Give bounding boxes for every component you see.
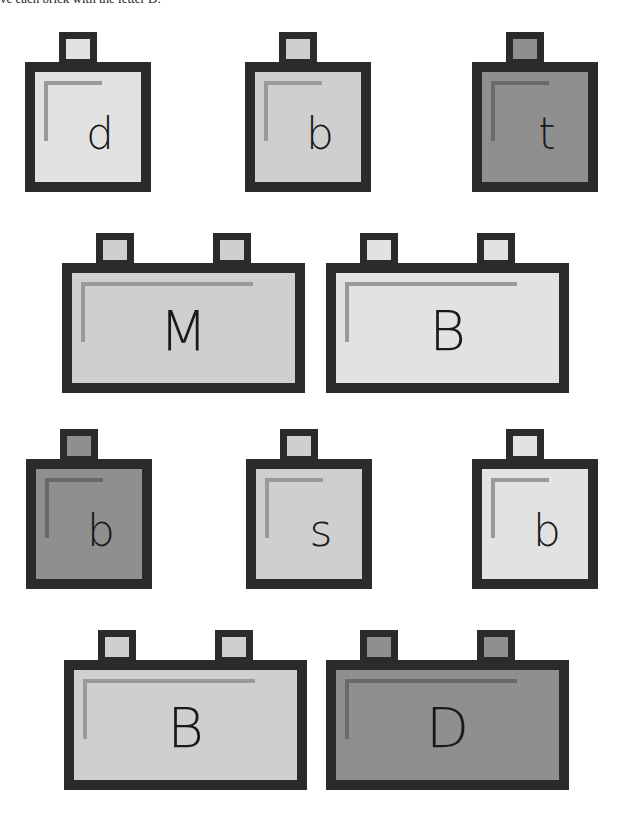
highlight-line — [265, 478, 323, 482]
brick-stud — [96, 233, 134, 267]
letter-brick[interactable]: d — [25, 32, 151, 192]
brick-letter: t — [512, 112, 582, 156]
highlight-line — [44, 81, 48, 141]
brick-letter: M — [72, 303, 295, 359]
brick-stud — [279, 32, 317, 66]
letter-brick[interactable]: b — [245, 32, 371, 192]
brick-body: d — [25, 62, 151, 192]
highlight-line — [81, 282, 253, 286]
letter-brick[interactable]: M — [62, 233, 305, 393]
letter-brick[interactable]: b — [26, 429, 152, 589]
brick-body: M — [62, 263, 305, 393]
brick-letter: d — [65, 112, 135, 156]
brick-stud — [59, 32, 97, 66]
brick-letter: b — [66, 509, 136, 553]
brick-stud — [213, 233, 251, 267]
highlight-line — [45, 478, 103, 482]
highlight-line — [264, 81, 322, 85]
brick-letter: b — [512, 509, 582, 553]
brick-stud — [360, 630, 398, 664]
highlight-line — [345, 679, 517, 683]
brick-stud — [506, 429, 544, 463]
brick-stud — [98, 630, 136, 664]
brick-stud — [506, 32, 544, 66]
letter-brick[interactable]: D — [326, 630, 569, 790]
brick-body: D — [326, 660, 569, 790]
brick-stud — [477, 233, 515, 267]
highlight-line — [491, 81, 549, 85]
letter-brick[interactable]: b — [472, 429, 598, 589]
brick-letter: D — [336, 700, 559, 756]
highlight-line — [491, 478, 549, 482]
brick-letter: s — [286, 509, 356, 553]
brick-body: b — [245, 62, 371, 192]
instruction-text: ve each brick with the letter D. — [0, 0, 161, 7]
brick-body: b — [26, 459, 152, 589]
brick-stud — [280, 429, 318, 463]
highlight-line — [491, 478, 495, 538]
brick-letter: b — [285, 112, 355, 156]
highlight-line — [265, 478, 269, 538]
brick-stud — [60, 429, 98, 463]
letter-brick[interactable]: B — [326, 233, 569, 393]
highlight-line — [83, 679, 255, 683]
highlight-line — [45, 478, 49, 538]
brick-stud — [360, 233, 398, 267]
letter-brick[interactable]: t — [472, 32, 598, 192]
brick-letter: B — [74, 700, 297, 756]
brick-stud — [477, 630, 515, 664]
letter-brick[interactable]: s — [246, 429, 372, 589]
highlight-line — [44, 81, 102, 85]
brick-body: s — [246, 459, 372, 589]
highlight-line — [345, 282, 517, 286]
highlight-line — [264, 81, 268, 141]
brick-body: B — [64, 660, 307, 790]
brick-letter: B — [336, 303, 559, 359]
brick-body: b — [472, 459, 598, 589]
letter-brick[interactable]: B — [64, 630, 307, 790]
brick-stud — [215, 630, 253, 664]
highlight-line — [491, 81, 495, 141]
brick-body: t — [472, 62, 598, 192]
brick-body: B — [326, 263, 569, 393]
